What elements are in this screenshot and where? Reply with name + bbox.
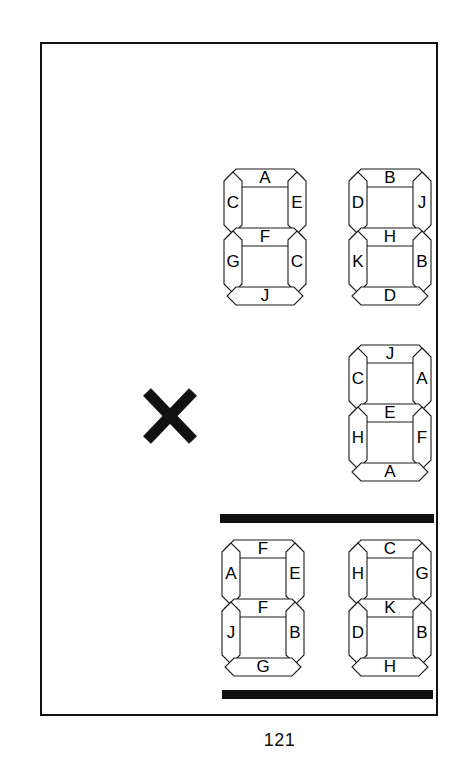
- segment-label-top-left: A: [225, 564, 237, 583]
- multiplication-sign-icon: [141, 386, 199, 446]
- segment-label-top: A: [259, 168, 271, 187]
- segment-label-top-right: J: [418, 193, 427, 212]
- page-border-frame: A C E F G C J B D J H K: [40, 42, 438, 716]
- segment-label-top: F: [258, 539, 268, 558]
- segment-label-top-right: G: [415, 564, 428, 583]
- segment-label-middle: F: [260, 227, 270, 246]
- seven-segment-display: J C A E H F A: [345, 341, 435, 493]
- segment-label-top-left: D: [352, 193, 364, 212]
- segment-label-top-left: C: [227, 193, 239, 212]
- segment-label-bottom: G: [256, 657, 269, 676]
- seven-segment-display: C H G K D B H: [345, 536, 435, 688]
- rule-bottom: [222, 690, 433, 699]
- segment-label-bottom-left: H: [352, 428, 364, 447]
- segment-label-top-right: E: [289, 564, 300, 583]
- rule-top: [220, 514, 434, 523]
- segment-label-top-left: C: [352, 369, 364, 388]
- segment-label-top-right: E: [291, 193, 302, 212]
- seven-segment-display: A C E F G C J: [220, 165, 310, 317]
- segment-label-bottom-right: F: [417, 428, 427, 447]
- segment-label-middle: E: [384, 403, 395, 422]
- segment-label-bottom: J: [261, 286, 270, 305]
- seven-segment-display: F A E F J B G: [218, 536, 308, 688]
- seven-segment-display: B D J H K B D: [345, 165, 435, 317]
- segment-label-bottom-right: C: [291, 252, 303, 271]
- segment-label-bottom-left: D: [352, 623, 364, 642]
- puzzle-page: A C E F G C J B D J H K: [0, 0, 475, 760]
- segment-label-bottom-right: B: [416, 623, 427, 642]
- segment-label-top: B: [384, 168, 395, 187]
- segment-label-bottom: A: [384, 462, 396, 481]
- segment-label-bottom-right: B: [416, 252, 427, 271]
- segment-label-bottom: H: [384, 657, 396, 676]
- segment-label-top-right: A: [416, 369, 428, 388]
- segment-label-bottom-right: B: [289, 623, 300, 642]
- segment-label-top: C: [384, 539, 396, 558]
- segment-label-top: J: [386, 344, 395, 363]
- segment-label-bottom-left: K: [352, 252, 364, 271]
- segment-label-bottom-left: G: [226, 252, 239, 271]
- page-number: 121: [42, 730, 475, 751]
- segment-label-bottom: D: [384, 286, 396, 305]
- segment-label-middle: K: [384, 598, 396, 617]
- segment-label-top-left: H: [352, 564, 364, 583]
- segment-label-bottom-left: J: [227, 623, 236, 642]
- segment-label-middle: F: [258, 598, 268, 617]
- segment-label-middle: H: [384, 227, 396, 246]
